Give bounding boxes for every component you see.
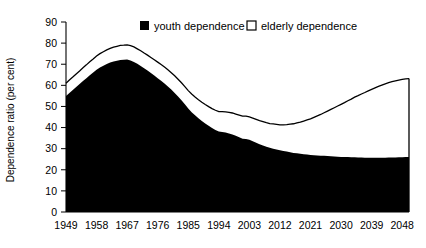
y-tick-label: 90 <box>45 16 57 28</box>
y-tick-label: 80 <box>45 37 57 49</box>
y-tick-label: 20 <box>45 164 57 176</box>
y-tick-label: 60 <box>45 79 57 91</box>
x-tick-label: 1985 <box>177 219 201 231</box>
chart-legend: youth dependence elderly dependence <box>140 20 357 32</box>
y-axis-title: Dependence ratio (per cent) <box>5 58 16 183</box>
x-axis-ticks: 1949195819671976198519942003201220212030… <box>54 219 414 231</box>
x-tick-label: 1949 <box>54 219 78 231</box>
x-tick-label: 1958 <box>85 219 109 231</box>
y-tick-label: 0 <box>51 206 57 218</box>
x-tick-label: 2012 <box>268 219 292 231</box>
y-tick-label: 40 <box>45 121 57 133</box>
x-tick-label: 2003 <box>238 219 262 231</box>
legend-label-elderly: elderly dependence <box>261 20 357 32</box>
legend-marker-elderly-icon <box>247 21 256 30</box>
plot-series-areas <box>66 45 409 212</box>
y-tick-label: 70 <box>45 58 57 70</box>
x-tick-label: 1976 <box>146 219 170 231</box>
x-tick-label: 2039 <box>360 219 384 231</box>
x-tick-label: 2030 <box>329 219 353 231</box>
y-axis-ticks: 0102030405060708090 <box>45 16 66 218</box>
dependence-ratio-chart: youth dependence elderly dependence Depe… <box>0 0 426 248</box>
chart-canvas: youth dependence elderly dependence Depe… <box>0 0 426 248</box>
legend-marker-youth-icon <box>140 21 149 30</box>
x-tick-label: 1967 <box>115 219 139 231</box>
x-tick-label: 2048 <box>391 219 415 231</box>
y-tick-label: 30 <box>45 142 57 154</box>
x-tick-label: 1994 <box>207 219 231 231</box>
x-tick-label: 2021 <box>299 219 323 231</box>
y-tick-label: 50 <box>45 100 57 112</box>
y-tick-label: 10 <box>45 185 57 197</box>
legend-label-youth: youth dependence <box>154 20 245 32</box>
